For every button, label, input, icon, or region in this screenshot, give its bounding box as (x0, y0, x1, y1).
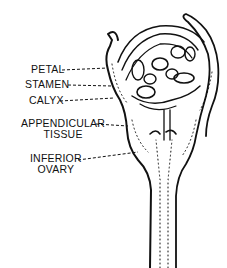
outer-right-outline (176, 14, 218, 268)
label-inferior-ovary: INFERIOR OVARY (30, 153, 82, 175)
label-text: CALYX (29, 94, 64, 106)
label-petal: PETAL (31, 64, 64, 75)
label-text: TISSUE (21, 129, 105, 140)
label-stamen: STAMEN (25, 79, 69, 90)
label-appendicular-tissue: APPENDICULAR TISSUE (21, 118, 105, 140)
label-calyx: CALYX (29, 95, 64, 106)
label-text: STAMEN (25, 78, 69, 90)
label-text: OVARY (30, 164, 82, 175)
label-text: PETAL (31, 63, 64, 75)
